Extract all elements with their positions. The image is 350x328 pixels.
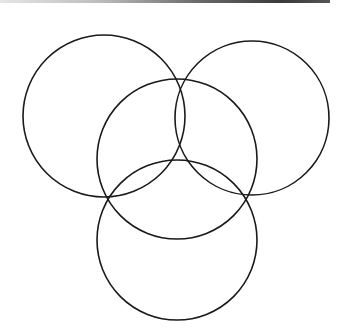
overlapping-circles-diagram (0, 0, 350, 328)
circle-bottom (97, 160, 257, 320)
circle-top-right (175, 41, 329, 195)
circle-top-left (23, 35, 185, 197)
